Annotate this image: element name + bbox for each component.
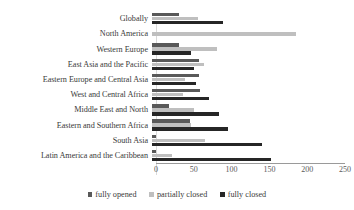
bar-fully-opened (152, 135, 156, 138)
bar-group (152, 72, 354, 87)
category-label: Western Europe (0, 45, 152, 54)
bar-group (152, 148, 354, 163)
bar-group (152, 87, 354, 102)
bar-fully-opened (152, 104, 169, 107)
category-label: East Asia and the Pacific (0, 60, 152, 69)
bar-fully-closed (152, 127, 228, 130)
legend-item[interactable]: partially closed (149, 190, 207, 199)
bar-group (152, 117, 354, 132)
category-row: Eastern Europe and Central Asia (0, 72, 354, 87)
category-label: West and Central Africa (0, 90, 152, 99)
bar-partially-closed (152, 32, 296, 35)
bar-partially-closed (152, 47, 217, 50)
bar-group (152, 11, 354, 26)
category-row: West and Central Africa (0, 87, 354, 102)
x-axis-tick-labels: 050100150200250 (0, 165, 354, 177)
bar-group (152, 26, 354, 41)
category-label: North America (0, 29, 152, 38)
bar-partially-closed (152, 17, 198, 20)
bar-fully-closed (152, 112, 219, 115)
bar-fully-closed (152, 21, 223, 24)
category-label: South Asia (0, 136, 152, 145)
bar-group (152, 57, 354, 72)
x-tick-label: 50 (190, 165, 198, 175)
category-rows: GloballyNorth AmericaWestern EuropeEast … (0, 11, 354, 163)
category-label: Middle East and North (0, 105, 152, 114)
legend-item[interactable]: fully closed (220, 190, 266, 199)
bar-fully-opened (152, 150, 156, 153)
category-label: Globally (0, 14, 152, 23)
category-row: North America (0, 26, 354, 41)
legend-label: partially closed (157, 190, 207, 199)
category-row: East Asia and the Pacific (0, 57, 354, 72)
x-tick-label: 0 (154, 165, 158, 175)
legend-label: fully closed (228, 190, 266, 199)
bar-fully-closed (152, 51, 191, 54)
bar-group (152, 133, 354, 148)
bar-partially-closed (152, 123, 191, 126)
bar-chart: GloballyNorth AmericaWestern EuropeEast … (0, 0, 354, 210)
bar-fully-closed (152, 143, 262, 146)
bar-partially-closed (152, 154, 172, 157)
bar-partially-closed (152, 139, 205, 142)
chart-legend: fully openedpartially closedfully closed (0, 190, 354, 199)
legend-swatch-icon (220, 192, 225, 197)
bar-partially-closed (152, 63, 204, 66)
category-row: Eastern and Southern Africa (0, 117, 354, 132)
bar-fully-closed (152, 158, 271, 161)
plot-area: GloballyNorth AmericaWestern EuropeEast … (0, 11, 354, 163)
x-tick-label: 150 (263, 165, 275, 175)
category-row: Latin America and the Caribbean (0, 148, 354, 163)
legend-swatch-icon (149, 192, 154, 197)
x-tick-label: 100 (226, 165, 238, 175)
legend-swatch-icon (88, 192, 93, 197)
legend-label: fully opened (95, 190, 136, 199)
bar-fully-closed (152, 67, 194, 70)
bar-fully-opened (152, 119, 190, 122)
category-row: Western Europe (0, 41, 354, 56)
category-label: Latin America and the Caribbean (0, 151, 152, 160)
x-tick-label: 200 (301, 165, 313, 175)
category-row: South Asia (0, 133, 354, 148)
bar-partially-closed (152, 93, 183, 96)
x-axis-line (156, 163, 345, 164)
x-tick-label: 250 (339, 165, 351, 175)
bar-fully-closed (152, 82, 196, 85)
category-label: Eastern Europe and Central Asia (0, 75, 152, 84)
bar-fully-opened (152, 89, 200, 92)
bar-fully-closed (152, 97, 209, 100)
bar-fully-opened (152, 43, 179, 46)
bar-fully-opened (152, 74, 199, 77)
legend-item[interactable]: fully opened (88, 190, 137, 199)
category-row: Middle East and North (0, 102, 354, 117)
bar-partially-closed (152, 108, 194, 111)
category-label: Eastern and Southern Africa (0, 121, 152, 130)
bar-fully-opened (152, 13, 179, 16)
bar-partially-closed (152, 78, 185, 81)
category-row: Globally (0, 11, 354, 26)
bar-group (152, 102, 354, 117)
bar-fully-opened (152, 59, 199, 62)
bar-group (152, 41, 354, 56)
